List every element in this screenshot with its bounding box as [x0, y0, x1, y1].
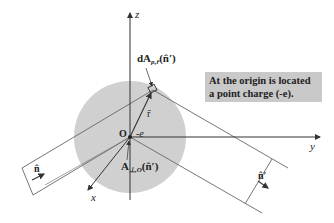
area-element-top-main: dA: [137, 52, 151, 64]
x-axis-label: x: [91, 191, 96, 203]
area-element-bottom-label: A⊥,O(n̂′): [121, 160, 158, 174]
info-box-line-2: a point charge (-e).: [209, 87, 318, 100]
area-element-top-suffix: (n̂′): [159, 52, 176, 64]
origin-label: O: [119, 128, 127, 139]
charge-sphere-diagram: [0, 0, 334, 223]
area-element-bottom-main: A: [121, 160, 129, 172]
normal-right-label: n̂′: [258, 170, 266, 181]
normal-left-arrow: [32, 174, 44, 180]
area-element-top-label: dAρ,r̄(n̂′): [137, 52, 176, 66]
info-box-line-1: At the origin is located: [209, 74, 318, 87]
position-vector-label: r̄: [147, 108, 150, 119]
point-charge: [128, 135, 132, 139]
info-box: At the origin is located a point charge …: [205, 72, 322, 102]
area-element-bottom-subscript: ⊥,O: [129, 166, 142, 174]
charge-label: -e: [136, 128, 144, 139]
area-element-bottom-suffix: (n̂′): [142, 160, 159, 172]
area-element-top-subscript: ρ,r̄: [151, 58, 159, 66]
normal-right-arrow: [258, 181, 268, 188]
z-axis-label: z: [135, 8, 139, 20]
left-band-end: [22, 168, 33, 195]
normal-left-label: n̂: [34, 163, 40, 174]
y-axis-label: y: [310, 140, 315, 152]
area-label-pointer: [146, 68, 152, 86]
